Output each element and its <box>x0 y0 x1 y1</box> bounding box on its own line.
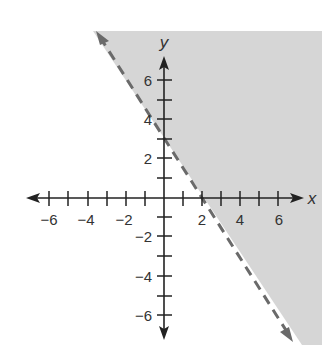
y-tick-label: −4 <box>135 268 152 285</box>
x-tick-label: −6 <box>40 211 57 228</box>
x-tick-label: 4 <box>236 211 244 228</box>
y-tick-label: −2 <box>135 228 152 245</box>
y-tick-label: 4 <box>144 111 152 128</box>
x-tick-label: 2 <box>198 211 206 228</box>
x-tick-label: −4 <box>77 211 94 228</box>
y-tick-label: 6 <box>144 72 152 89</box>
coordinate-graph: −6 −4 −2 2 4 6 x 6 4 2 −2 −4 −6 <box>0 0 336 355</box>
boundary-arrow-bottom-icon <box>280 327 293 342</box>
x-tick-label: −2 <box>115 211 132 228</box>
y-axis-label: y <box>159 33 170 52</box>
y-tick-label: −6 <box>135 307 152 324</box>
shaded-region <box>93 31 322 345</box>
x-tick-label: 6 <box>275 211 283 228</box>
y-tick-label: 2 <box>144 150 152 167</box>
x-axis-label: x <box>307 189 317 208</box>
